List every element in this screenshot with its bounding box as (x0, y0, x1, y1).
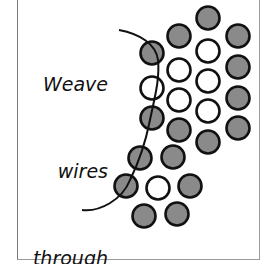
filled-bead (197, 131, 220, 154)
filled-bead (227, 87, 250, 110)
filled-bead (179, 175, 202, 198)
beads (115, 7, 250, 228)
empty-bead (197, 100, 220, 123)
empty-bead (197, 70, 220, 93)
filled-bead (227, 117, 250, 140)
filled-bead (168, 119, 191, 142)
filled-bead (166, 203, 189, 226)
filled-bead (168, 25, 191, 48)
empty-bead (141, 77, 164, 100)
bead-weave-illustration (0, 0, 276, 264)
filled-bead (133, 205, 156, 228)
empty-bead (197, 40, 220, 63)
empty-bead (168, 89, 191, 112)
empty-bead (147, 177, 170, 200)
filled-bead (197, 7, 220, 30)
filled-bead (162, 146, 185, 169)
filled-bead (227, 25, 250, 48)
empty-bead (168, 59, 191, 82)
filled-bead (227, 56, 250, 79)
